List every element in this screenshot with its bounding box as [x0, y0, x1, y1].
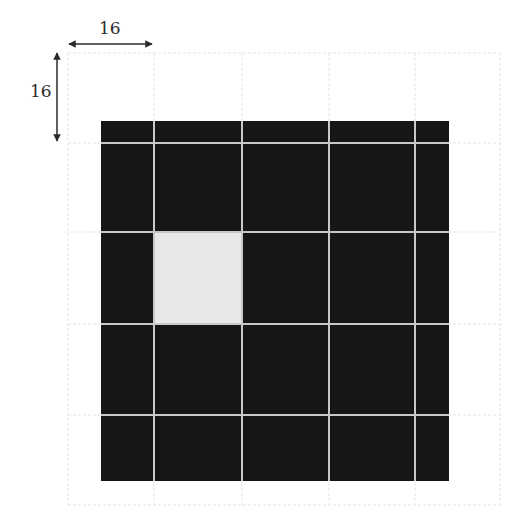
block-grid-diagram [0, 0, 527, 528]
horizontal-dimension-label: 16 [99, 18, 121, 38]
highlighted-cell [154, 232, 242, 324]
vertical-dimension-label: 16 [30, 81, 52, 101]
